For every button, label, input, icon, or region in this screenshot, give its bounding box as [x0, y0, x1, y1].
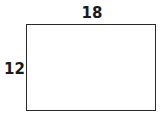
height-label: 12 — [4, 62, 25, 77]
width-label: 18 — [80, 6, 104, 21]
rectangle-shape — [26, 24, 156, 111]
